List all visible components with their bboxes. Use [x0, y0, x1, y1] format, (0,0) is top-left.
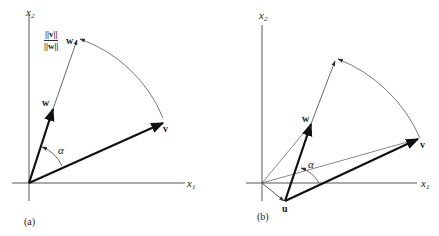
fraction-numerator: ||v|| [44, 30, 58, 41]
vector-u-label-b: u [282, 204, 288, 214]
caption-a: (a) [24, 217, 35, 227]
scaled-w-fraction: ||v|| ||w|| [44, 30, 58, 51]
vector-v-label-a: v [163, 124, 168, 134]
angle-alpha-label-a: α [58, 145, 64, 156]
x2-axis-label-a: x2 [26, 7, 34, 20]
x1-label-sub: 1 [426, 183, 430, 191]
panel-a [12, 15, 185, 201]
angle-alpha-label-b: α [308, 159, 314, 170]
rotation-arc [338, 59, 420, 138]
angle-arc [301, 168, 319, 183]
vector-u [262, 183, 284, 201]
x2-label-sub: 2 [264, 15, 268, 23]
x1-axis-label-b: x1 [421, 178, 429, 191]
vector-w-label-a: w [42, 98, 49, 108]
panel-b [246, 25, 420, 201]
x1-axis-label-a: x1 [187, 178, 195, 191]
caption-b: (b) [257, 212, 269, 222]
x1-label-sub: 1 [192, 183, 196, 191]
x2-label-sub: 2 [31, 12, 35, 20]
fraction-denominator: ||w|| [44, 41, 58, 51]
vector-w [29, 109, 53, 183]
scaled-w-extension [311, 61, 335, 124]
scaled-w-label: w [66, 36, 73, 46]
x2-axis-label-b: x2 [259, 10, 267, 23]
vector-v [29, 123, 163, 183]
rotation-arc [80, 39, 163, 118]
vector-v-label-b: v [420, 140, 425, 150]
thin-w-from-origin [262, 124, 311, 183]
vector-w-label-b: w [302, 114, 309, 124]
